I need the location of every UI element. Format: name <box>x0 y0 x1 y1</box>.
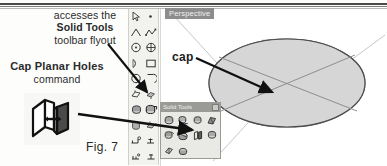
paint-bucket-tool[interactable] <box>144 9 159 25</box>
cap-planar-holes-glyph <box>24 93 80 145</box>
outer-shell-tool[interactable] <box>162 113 176 128</box>
solid-tools-flyout[interactable]: Solid Tools <box>160 102 221 159</box>
push-pull-tool[interactable] <box>144 87 159 103</box>
freehand-tool[interactable] <box>144 25 159 41</box>
scale-tool[interactable] <box>144 118 159 134</box>
flyout-empty-slot-1 <box>191 143 205 158</box>
solid-tools-flyout-button[interactable] <box>144 102 159 118</box>
solid-inspector-tool[interactable] <box>205 128 219 143</box>
union-tool[interactable] <box>191 113 205 128</box>
trim-tool[interactable] <box>162 128 176 143</box>
annotation-cap-subtitle: command <box>2 73 112 85</box>
figure-caption: Fig. 7 <box>86 140 118 154</box>
rectangle-tool[interactable] <box>144 56 159 72</box>
move-tool[interactable] <box>129 87 144 103</box>
extra-tool-a[interactable] <box>162 143 176 158</box>
rotate-tool[interactable] <box>129 102 144 118</box>
intersect-tool[interactable] <box>176 113 190 128</box>
subtract-tool[interactable] <box>205 113 219 128</box>
cap-planar-holes-tool[interactable] <box>191 128 205 143</box>
axes-tool[interactable] <box>129 164 144 166</box>
annotation-line-2: Solid Tools <box>33 21 137 33</box>
annotation-cap-planar-holes: Cap Planar Holes command <box>2 60 112 85</box>
flyout-empty-slot-2 <box>205 143 219 158</box>
tape-measure-tool[interactable] <box>129 133 144 149</box>
follow-me-tool[interactable] <box>129 118 144 134</box>
text-tool[interactable] <box>144 149 159 165</box>
bezier-tool[interactable] <box>144 71 159 87</box>
callout-label-cap: cap <box>172 50 194 64</box>
arc-tool[interactable] <box>129 56 144 72</box>
split-tool[interactable] <box>176 128 190 143</box>
page-rule-top <box>0 3 387 5</box>
view-tab-perspective[interactable]: Perspective <box>165 8 214 19</box>
3d-text-tool[interactable] <box>144 164 159 166</box>
dimension-tool[interactable] <box>144 133 159 149</box>
figure-page: Perspective <box>0 0 387 166</box>
annotation-accesses-solid-tools: accesses the Solid Tools toolbar flyout <box>33 9 137 46</box>
extra-tool-b[interactable] <box>176 143 190 158</box>
cap-planar-holes-icon <box>24 93 80 145</box>
close-icon[interactable] <box>212 104 219 111</box>
polygon-tool[interactable] <box>144 40 159 56</box>
page-rule-mid <box>0 6 387 7</box>
protractor-tool[interactable] <box>129 149 144 165</box>
annotation-cap-title: Cap Planar Holes <box>2 60 112 73</box>
annotation-line-3: toolbar flyout <box>33 34 137 46</box>
annotation-line-1: accesses the <box>33 9 137 21</box>
pie-tool[interactable] <box>129 71 144 87</box>
